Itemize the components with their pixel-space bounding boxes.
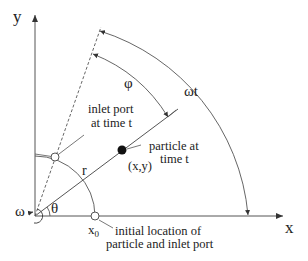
theta-arc <box>47 207 50 216</box>
inlet-leader <box>55 135 84 157</box>
omega-label: ω <box>15 203 25 219</box>
x0-label: x0 <box>88 222 100 239</box>
diagram-svg: y x θ ω r x0 φ ωt inlet port at time t p… <box>0 0 308 261</box>
particle-label-line1: particle at <box>149 139 199 153</box>
initial-label-line1: initial location of <box>115 224 202 238</box>
radius-label: r <box>82 163 87 178</box>
x0-marker <box>91 212 99 220</box>
omega-t-label: ωt <box>184 83 199 99</box>
y-axis-label: y <box>13 7 22 26</box>
omega-pointer <box>29 212 33 213</box>
particle-coords: (x,y) <box>128 159 152 173</box>
rotating-frame-diagram: y x θ ω r x0 φ ωt inlet port at time t p… <box>0 0 308 261</box>
particle-label-line2: time t <box>160 152 189 166</box>
inlet-port-marker <box>51 153 59 161</box>
initial-label-line2: particle and inlet port <box>106 237 214 251</box>
phi-end-tick <box>168 110 176 117</box>
particle-marker <box>118 146 127 155</box>
inlet-label-line1: inlet port <box>88 102 134 116</box>
x0-leader <box>99 220 113 228</box>
phi-label: φ <box>124 75 133 91</box>
theta-label: θ <box>51 200 58 216</box>
x-axis-label: x <box>285 218 294 237</box>
inlet-label-line2: at time t <box>91 116 132 130</box>
